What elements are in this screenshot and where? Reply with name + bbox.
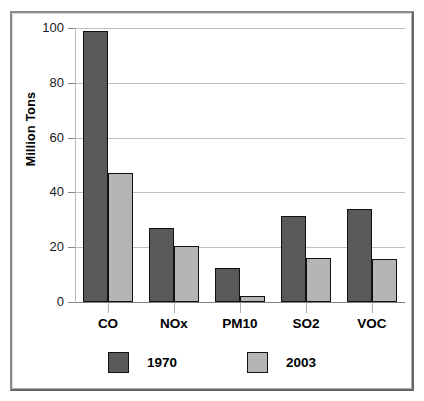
y-tick-label-0: 0 [28,295,64,308]
bar-co-2003 [108,173,133,302]
y-tick-40 [68,192,75,193]
y-tick-label-40: 40 [28,185,64,198]
bar-chart-figure: 020406080100 Million Tons CONOxPM10SO2VO… [0,0,424,401]
bar-voc-2003 [372,259,397,302]
bar-so2-1970 [281,216,306,302]
x-axis-label-nox: NOx [139,316,209,331]
x-axis-label-so2: SO2 [271,316,341,331]
y-tick-100 [68,28,75,29]
gridline-80 [75,83,405,84]
x-axis-label-co: CO [73,316,143,331]
chart-legend: 1970 2003 [108,352,316,373]
legend-swatch-1970 [108,352,129,373]
bar-pm10-2003 [240,296,265,302]
x-tick-voc [372,303,373,313]
y-tick-0 [68,302,75,303]
x-axis-label-voc: VOC [337,316,407,331]
y-axis-title: Million Tons [24,74,38,184]
gridline-60 [75,138,405,139]
x-tick-so2 [306,303,307,313]
y-tick-label-20: 20 [28,240,64,253]
x-tick-pm10 [240,303,241,313]
x-tick-nox [174,303,175,313]
bar-voc-1970 [347,209,372,302]
legend-swatch-2003 [247,352,268,373]
legend-item-1970: 1970 [108,352,177,373]
y-tick-label-100: 100 [28,21,64,34]
x-axis-label-pm10: PM10 [205,316,275,331]
bar-so2-2003 [306,258,331,302]
bar-nox-2003 [174,246,199,302]
y-axis-line [75,28,76,303]
bar-pm10-1970 [215,268,240,302]
x-tick-co [108,303,109,313]
y-tick-60 [68,138,75,139]
y-tick-80 [68,83,75,84]
bar-co-1970 [83,31,108,302]
legend-label-2003: 2003 [286,355,316,370]
legend-label-1970: 1970 [147,355,177,370]
legend-item-2003: 2003 [247,352,316,373]
gridline-100 [75,28,405,29]
y-tick-20 [68,247,75,248]
bar-nox-1970 [149,228,174,302]
